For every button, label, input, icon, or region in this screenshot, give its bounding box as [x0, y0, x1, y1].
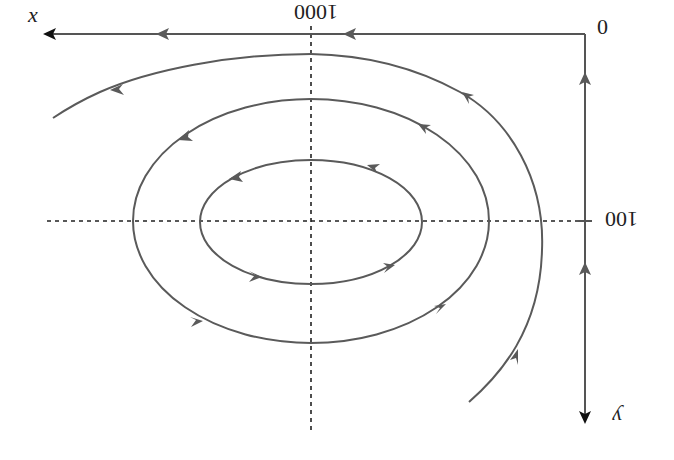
outer-trajectory [53, 54, 542, 402]
middle-orbit-arrow-icon [190, 317, 203, 327]
inner-orbit-arrow-icon [249, 271, 262, 282]
inner-orbit-arrow-icon [229, 171, 243, 182]
origin-label: 0 [597, 14, 608, 39]
phase-portrait-diagram: x 0 1000 100 y [0, 0, 674, 460]
outer-trajectory-arrow-icon [462, 92, 474, 104]
x-axis-label: x [27, 2, 38, 27]
y-axis-label: y [612, 405, 624, 430]
x-tick-label: 1000 [294, 0, 338, 25]
y-tick-label: 100 [605, 207, 638, 232]
